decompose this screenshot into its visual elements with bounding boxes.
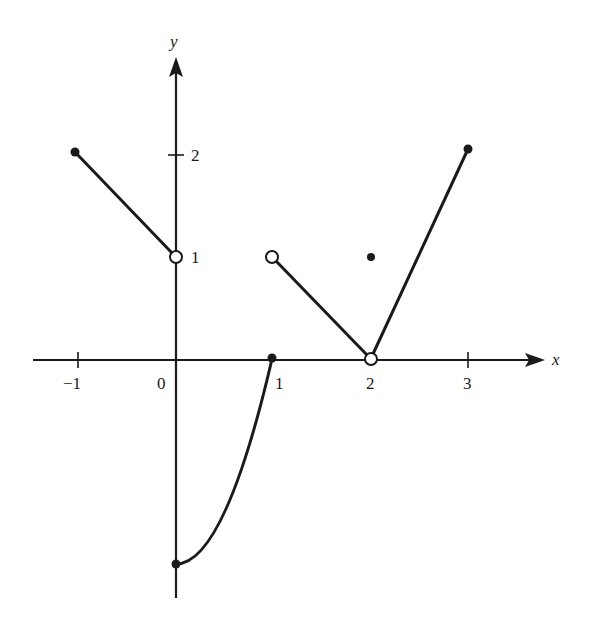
filled-point-neg1-2 <box>71 148 80 157</box>
x-tick-label-neg1: −1 <box>63 374 81 393</box>
y-tick-label-1: 1 <box>191 248 200 267</box>
x-axis-label: x <box>551 350 560 369</box>
function-graph: y x −1 0 1 2 3 1 2 <box>0 0 592 630</box>
axes <box>33 57 545 598</box>
x-tick-label-2: 2 <box>366 374 375 393</box>
x-tick-label-3: 3 <box>463 374 472 393</box>
y-axis-label: y <box>168 32 178 51</box>
x-tick-label-0: 0 <box>157 374 166 393</box>
segment-right-line <box>373 149 468 354</box>
segment-left-line <box>75 152 172 253</box>
open-point-2-0 <box>365 353 377 365</box>
x-tick-label-1: 1 <box>275 374 284 393</box>
filled-point-2-1 <box>367 253 375 261</box>
open-point-0-1 <box>170 251 182 263</box>
segment-parabola <box>176 359 272 564</box>
open-point-1-1 <box>266 251 278 263</box>
segment-middle-line <box>276 261 367 355</box>
y-tick-label-2: 2 <box>191 146 200 165</box>
filled-point-3-2 <box>464 145 473 154</box>
filled-point-1-0 <box>268 354 277 363</box>
filled-point-0-neg2 <box>172 560 181 569</box>
